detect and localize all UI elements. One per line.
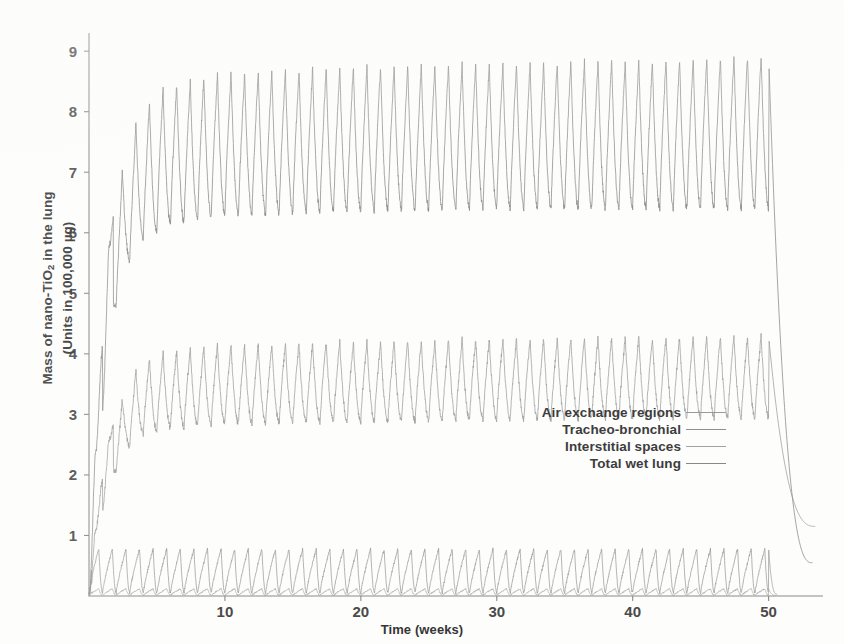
axes-group [84, 33, 823, 601]
y-axis-title-line1: Mass of nano-TiO [40, 270, 55, 385]
y-tick-label: 2 [69, 466, 77, 483]
y-tick-label: 8 [69, 103, 77, 120]
y-axis-title-line1-tail: in the lung [40, 191, 55, 264]
x-tick-label: 40 [624, 603, 641, 620]
legend-item[interactable]: Total wet lung [500, 455, 726, 471]
x-tick-label: 30 [488, 603, 505, 620]
y-tick-label: 9 [69, 43, 77, 60]
x-axis-title: Time (weeks) [0, 622, 844, 637]
legend-line-swatch [686, 407, 726, 417]
series-line [89, 57, 812, 595]
x-tick-label: 10 [217, 603, 234, 620]
chart-legend: Air exchange regionsTracheo-bronchialInt… [500, 404, 726, 472]
legend-item-label: Tracheo-bronchial [562, 422, 681, 437]
tick-labels-group: 1234567891020304050 [69, 43, 777, 620]
y-axis-title: Mass of nano-TiO2 in the lung (Units in … [38, 138, 77, 438]
chart-figure: 1234567891020304050 Mass of nano-TiO2 in… [0, 0, 844, 644]
legend-item[interactable]: Interstitial spaces [500, 438, 726, 454]
legend-item-label: Interstitial spaces [565, 439, 681, 454]
legend-item[interactable]: Air exchange regions [500, 404, 726, 420]
y-tick-label: 1 [69, 527, 77, 544]
legend-line-swatch [686, 441, 726, 451]
legend-item-label: Air exchange regions [542, 405, 681, 420]
series-group [89, 57, 815, 596]
x-tick-label: 50 [760, 603, 777, 620]
legend-line-swatch [686, 424, 726, 434]
y-axis-title-subscript: 2 [45, 265, 56, 270]
chart-plot-area: 1234567891020304050 [0, 0, 844, 644]
x-tick-label: 20 [353, 603, 370, 620]
legend-item[interactable]: Tracheo-bronchial [500, 421, 726, 437]
legend-line-swatch [686, 458, 726, 468]
legend-item-label: Total wet lung [590, 456, 681, 471]
y-axis-title-line2: (Units in 100,000 µg) [60, 222, 75, 355]
series-line [89, 548, 777, 596]
